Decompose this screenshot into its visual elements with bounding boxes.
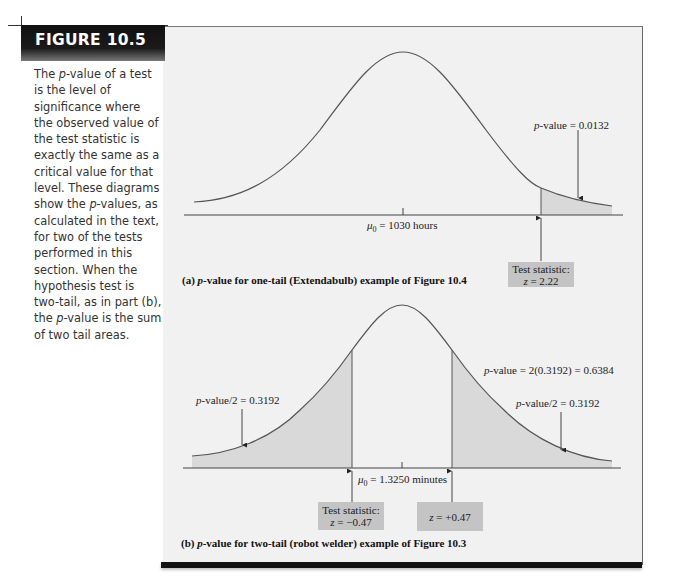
test-statistic-box-right-b: z = +0.47 (417, 502, 483, 531)
stat-value: z = +0.47 (417, 511, 483, 523)
mu-label-b: μ0 = 1.3250 minutes (358, 473, 447, 488)
panel-b-caption: (b) p-value for two-tail (robot welder) … (181, 537, 466, 549)
pvalue-text: -value = 0.0132 (540, 119, 609, 131)
normal-curve-b (192, 305, 612, 461)
stat-value: z = −0.47 (318, 516, 384, 528)
z-value: = +0.47 (434, 511, 471, 523)
z-value: = 2.22 (528, 275, 559, 287)
caption-prefix: (a) (182, 274, 198, 286)
caption-prefix: (b) (181, 537, 197, 549)
tail-text: -value/2 = 0.3192 (202, 394, 280, 406)
pvalue-text: -value = 2(0.3192) = 0.6384 (490, 364, 614, 376)
right-tail-label-b: p-value/2 = 0.3192 (516, 397, 600, 409)
tail-text: -value/2 = 0.3192 (522, 397, 600, 409)
stat-value: z = 2.22 (508, 275, 574, 287)
bottom-rule (161, 562, 642, 568)
mu-text: = 1.3250 minutes (368, 473, 448, 485)
z-value: = −0.47 (335, 516, 372, 528)
caption-rest: -value for one-tail (Extendabulb) exampl… (203, 274, 467, 286)
left-tail-area (192, 350, 352, 468)
mu-label-a: μ0 = 1030 hours (367, 219, 437, 234)
charts-svg (0, 0, 673, 587)
panel-a-caption: (a) p-value for one-tail (Extendabulb) e… (182, 274, 467, 286)
test-statistic-box-a: Test statistic: z = 2.22 (508, 262, 574, 287)
left-tail-label-b: p-value/2 = 0.3192 (196, 394, 280, 406)
mu-text: = 1030 hours (377, 219, 438, 231)
stat-label: Test statistic: (318, 504, 384, 516)
test-statistic-box-left-b: Test statistic: z = −0.47 (318, 502, 384, 530)
stat-label: Test statistic: (508, 263, 574, 275)
caption-rest: -value for two-tail (robot welder) examp… (203, 537, 467, 549)
pvalue-label-a: p-value = 0.0132 (534, 119, 609, 131)
pvalue-total-label-b: p-value = 2(0.3192) = 0.6384 (484, 364, 614, 376)
